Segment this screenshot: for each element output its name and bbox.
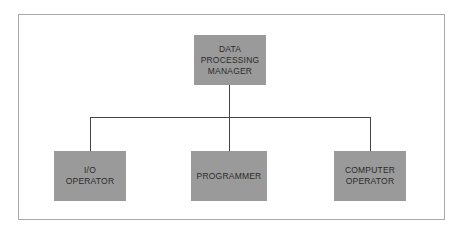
- node-data-processing-manager: DATA PROCESSING MANAGER: [194, 35, 266, 85]
- node-label: OPERATOR: [345, 176, 395, 187]
- connector-root-down: [229, 85, 230, 117]
- connector-center-down: [229, 117, 230, 151]
- node-label: DATA: [201, 44, 260, 55]
- node-label: COMPUTER: [345, 165, 395, 176]
- connector-right-down: [370, 117, 371, 151]
- node-label: PROCESSING: [201, 55, 260, 66]
- node-label: I/O: [66, 165, 115, 176]
- node-io-operator: I/O OPERATOR: [54, 151, 126, 201]
- node-label: MANAGER: [201, 66, 260, 77]
- connector-horizontal: [90, 117, 371, 118]
- node-programmer: PROGRAMMER: [191, 151, 267, 201]
- node-computer-operator: COMPUTER OPERATOR: [334, 151, 406, 201]
- connector-left-down: [90, 117, 91, 151]
- node-label: OPERATOR: [66, 176, 115, 187]
- node-label: PROGRAMMER: [197, 171, 262, 182]
